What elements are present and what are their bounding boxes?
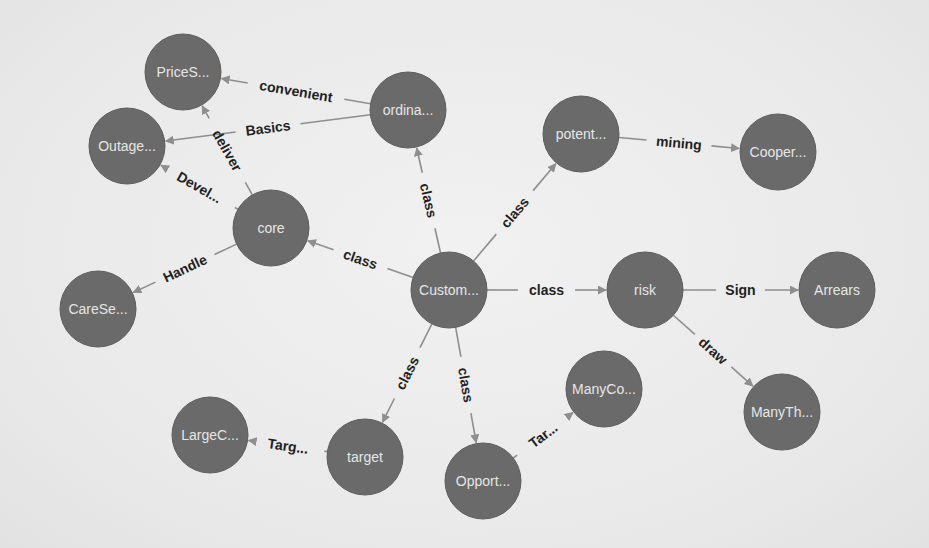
node-circle[interactable]: [566, 351, 642, 427]
edge-risk-arrears[interactable]: Sign: [683, 282, 798, 298]
edge-custom-core[interactable]: class: [308, 241, 413, 278]
edge-line: [245, 182, 252, 195]
node-circle[interactable]: [370, 72, 446, 148]
edge-core-outage[interactable]: Devel...: [161, 165, 238, 209]
arrow-icon: [569, 413, 573, 416]
arrow-icon: [731, 367, 753, 386]
arrow-icon: [308, 241, 334, 250]
edge-label: Sign: [725, 282, 755, 298]
edge-line: [474, 234, 497, 261]
edge-label: deliver: [209, 127, 245, 175]
edge-target-largec[interactable]: Targ...: [249, 435, 328, 457]
node-carese[interactable]: CareSe...: [60, 271, 136, 347]
node-largec[interactable]: LargeC...: [172, 397, 248, 473]
edge-label: class: [497, 194, 532, 231]
node-circle[interactable]: [799, 252, 875, 328]
arrow-icon: [221, 78, 247, 82]
node-circle[interactable]: [607, 252, 683, 328]
edge-custom-opport[interactable]: class: [455, 327, 477, 442]
edge-line: [387, 269, 413, 278]
edge-core-prices[interactable]: deliver: [202, 106, 252, 195]
arrow-icon: [417, 148, 423, 173]
node-circle[interactable]: [60, 271, 136, 347]
edge-line: [420, 324, 432, 348]
edge-line: [513, 455, 517, 458]
edge-ordina-outage[interactable]: Basics: [166, 115, 371, 141]
node-circle[interactable]: [327, 419, 403, 495]
node-outage[interactable]: Outage...: [89, 108, 165, 184]
node-manyth[interactable]: ManyTh...: [744, 374, 820, 450]
knowledge-graph-canvas[interactable]: convenientBasicsdeliverDevel...Handlecla…: [0, 0, 929, 548]
edge-custom-ordina[interactable]: class: [417, 148, 441, 253]
edge-risk-manyth[interactable]: draw: [673, 315, 752, 386]
node-ordina[interactable]: ordina...: [370, 72, 446, 148]
edge-label: mining: [655, 133, 702, 153]
node-risk[interactable]: risk: [607, 252, 683, 328]
node-circle[interactable]: [411, 252, 487, 328]
node-cooper[interactable]: Cooper...: [740, 114, 816, 190]
edge-opport-manyco[interactable]: Tar...: [513, 413, 573, 458]
node-opport[interactable]: Opport...: [445, 443, 521, 519]
graph-svg: convenientBasicsdeliverDevel...Handlecla…: [0, 0, 929, 548]
edge-label: class: [392, 354, 422, 393]
edge-label: class: [529, 282, 564, 298]
edge-label: Tar...: [526, 419, 561, 451]
edge-line: [673, 315, 695, 334]
node-arrears[interactable]: Arrears: [799, 252, 875, 328]
edge-label: Devel...: [174, 168, 225, 206]
edge-label: convenient: [258, 77, 334, 105]
edge-custom-target[interactable]: class: [383, 324, 432, 422]
arrow-icon: [133, 282, 155, 292]
node-potent[interactable]: potent...: [543, 96, 619, 172]
edge-label: Targ...: [267, 435, 310, 457]
edge-line: [214, 244, 236, 254]
edge-custom-risk[interactable]: class: [487, 282, 606, 298]
node-core[interactable]: core: [233, 190, 309, 266]
edge-line: [344, 99, 370, 103]
node-circle[interactable]: [233, 190, 309, 266]
node-custom[interactable]: Custom...: [411, 252, 487, 328]
edge-ordina-prices[interactable]: convenient: [221, 77, 370, 105]
edge-potent-cooper[interactable]: mining: [619, 133, 739, 153]
edge-line: [235, 207, 238, 209]
node-prices[interactable]: PriceS...: [145, 34, 221, 110]
arrow-icon: [533, 164, 556, 191]
arrow-icon: [202, 106, 209, 119]
arrow-icon: [161, 165, 164, 167]
edge-label: Handle: [160, 251, 209, 285]
arrow-icon: [471, 413, 476, 443]
arrow-icon: [383, 399, 395, 423]
edge-label: class: [455, 366, 477, 404]
arrow-icon: [711, 146, 739, 149]
edge-label: Basics: [245, 117, 292, 139]
node-circle[interactable]: [145, 34, 221, 110]
edge-label: draw: [696, 334, 731, 368]
edge-line: [456, 327, 461, 357]
node-circle[interactable]: [744, 374, 820, 450]
edge-core-carese[interactable]: Handle: [133, 244, 236, 292]
node-circle[interactable]: [740, 114, 816, 190]
node-circle[interactable]: [543, 96, 619, 172]
node-circle[interactable]: [172, 397, 248, 473]
node-manyco[interactable]: ManyCo...: [566, 351, 642, 427]
node-circle[interactable]: [89, 108, 165, 184]
edge-line: [300, 115, 370, 124]
node-target[interactable]: target: [327, 419, 403, 495]
edge-line: [435, 228, 441, 253]
edge-label: class: [341, 246, 380, 273]
edge-custom-potent[interactable]: class: [474, 164, 556, 261]
edge-line: [619, 137, 647, 140]
node-circle[interactable]: [445, 443, 521, 519]
edge-label: class: [417, 182, 440, 220]
